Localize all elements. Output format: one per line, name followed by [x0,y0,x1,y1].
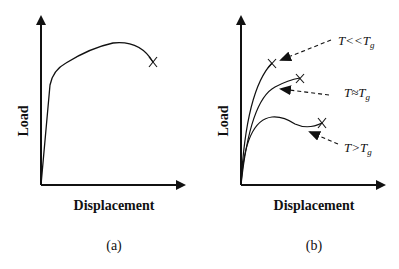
load-displacement-figure: Load Displacement (a) T<<Tg T≈Tg T>Tg Lo… [0,0,399,269]
label-t-approx-tg: T≈Tg [344,85,371,102]
y-axis-label: Load [16,105,31,136]
curve-below-tg [241,63,272,185]
pointer-arrow [281,89,329,95]
curve-above-tg [241,117,322,185]
curve-near-tg [241,78,300,185]
label-t-much-less-tg: T<<Tg [338,33,375,50]
panel-a: Load Displacement (a) [16,17,184,254]
failure-marker [318,118,326,128]
x-axis-label: Displacement [274,198,355,213]
pointer-arrow [310,132,338,144]
load-curve [41,43,153,185]
x-axis-label: Displacement [74,198,155,213]
pointer-arrow [281,40,331,60]
panel-b: T<<Tg T≈Tg T>Tg Load Displacement (b) [216,17,384,254]
panel-caption: (b) [306,238,323,254]
label-t-greater-tg: T>Tg [344,140,372,157]
y-axis-label: Load [216,105,231,136]
failure-marker [268,59,276,68]
panel-caption: (a) [106,238,122,254]
failure-marker [149,57,157,67]
